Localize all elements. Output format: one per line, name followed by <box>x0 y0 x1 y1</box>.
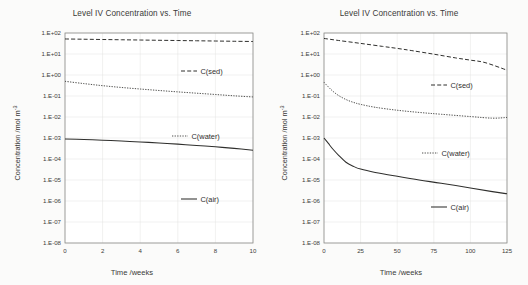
x-axis-label-left: Time /weeks <box>0 268 264 277</box>
x-tick-label: 75 <box>430 247 437 254</box>
x-tick-label: 100 <box>465 247 476 254</box>
chart-panel-right: Level IV Concentration vs. Time Concentr… <box>264 0 528 285</box>
plot-area-right: 1.E+021.E+011.E+001.E-011.E-021.E-031.E-… <box>264 0 528 285</box>
y-tick-label: 1.E-01 <box>43 92 62 99</box>
y-tick-label: 1.E-02 <box>43 113 62 120</box>
x-tick-label: 2 <box>101 247 105 254</box>
y-tick-label: 1.E-08 <box>43 239 62 246</box>
y-tick-label: 1.E-01 <box>302 92 321 99</box>
y-tick-label: 1.E-05 <box>302 176 321 183</box>
y-tick-label: 1.E-02 <box>302 113 321 120</box>
y-tick-label: 1.E-06 <box>302 197 321 204</box>
x-tick-label: 25 <box>357 247 364 254</box>
x-tick-label: 125 <box>502 247 513 254</box>
chart-panel-left: Level IV Concentration vs. Time Concentr… <box>0 0 264 285</box>
two-panel-chart-figure: Level IV Concentration vs. Time Concentr… <box>0 0 528 285</box>
y-tick-label: 1.E-04 <box>43 155 62 162</box>
y-tick-label: 1.E-07 <box>302 218 321 225</box>
legend-label-cwater: C(water) <box>442 149 470 158</box>
legend-label-cair: C(air) <box>451 203 469 212</box>
plot-area-left: 1.E+021.E+011.E+001.E-011.E-021.E-031.E-… <box>0 0 264 285</box>
y-tick-label: 1.E-04 <box>302 155 321 162</box>
legend-label-cair: C(air) <box>201 195 219 204</box>
x-tick-label: 8 <box>214 247 218 254</box>
x-tick-label: 6 <box>176 247 180 254</box>
y-tick-label: 1.E-03 <box>302 134 321 141</box>
legend-label-csed: C(sed) <box>201 67 223 76</box>
x-tick-label: 4 <box>139 247 143 254</box>
y-tick-label: 1.E+02 <box>42 29 62 36</box>
x-axis-label-right: Time /weeks <box>264 268 528 277</box>
x-tick-label: 0 <box>63 247 67 254</box>
x-tick-label: 10 <box>250 247 257 254</box>
y-tick-label: 1.E+00 <box>42 71 62 78</box>
x-tick-label: 50 <box>394 247 401 254</box>
y-tick-label: 1.E+01 <box>42 50 62 57</box>
y-tick-label: 1.E+01 <box>301 50 321 57</box>
y-tick-label: 1.E-03 <box>43 134 62 141</box>
y-tick-label: 1.E-06 <box>43 197 62 204</box>
y-tick-label: 1.E-08 <box>302 239 321 246</box>
y-tick-label: 1.E+02 <box>301 29 321 36</box>
y-tick-label: 1.E-07 <box>43 218 62 225</box>
legend-label-cwater: C(water) <box>192 132 220 141</box>
y-tick-label: 1.E+00 <box>301 71 321 78</box>
x-tick-label: 0 <box>322 247 326 254</box>
legend-label-csed: C(sed) <box>451 81 473 90</box>
y-tick-label: 1.E-05 <box>43 176 62 183</box>
